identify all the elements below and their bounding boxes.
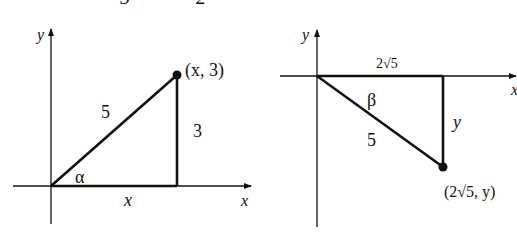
- hypotenuse-label: 5: [367, 130, 376, 150]
- diagram-canvas: 5 2 y x (x, 3) 5 3 x α y x 2√5 β 5 y (2√…: [0, 0, 517, 240]
- x-axis-label: x: [510, 81, 517, 98]
- angle-alpha-label: α: [75, 167, 85, 187]
- hypotenuse: [317, 76, 443, 167]
- vertical-side-label: y: [451, 112, 461, 132]
- hypotenuse: [51, 75, 177, 186]
- top-fragment: 5 2: [120, 0, 206, 8]
- top-fragment-right: 2: [196, 0, 206, 8]
- point-label: (2√5, y): [444, 183, 495, 201]
- y-axis-label: y: [300, 26, 310, 44]
- x-axis-label: x: [240, 192, 248, 209]
- figure-left: y x (x, 3) 5 3 x α: [13, 26, 251, 224]
- figure-right: y x 2√5 β 5 y (2√5, y): [280, 26, 517, 227]
- vertical-side-label: 3: [193, 121, 202, 141]
- point-marker: [173, 71, 182, 80]
- point-marker: [439, 163, 448, 172]
- horizontal-side-label: 2√5: [376, 56, 398, 71]
- top-fragment-left: 5: [120, 0, 130, 8]
- y-axis-label: y: [35, 26, 45, 44]
- point-label: (x, 3): [185, 60, 224, 81]
- angle-beta-label: β: [367, 90, 376, 110]
- horizontal-side-label: x: [123, 190, 132, 210]
- hypotenuse-label: 5: [101, 102, 110, 122]
